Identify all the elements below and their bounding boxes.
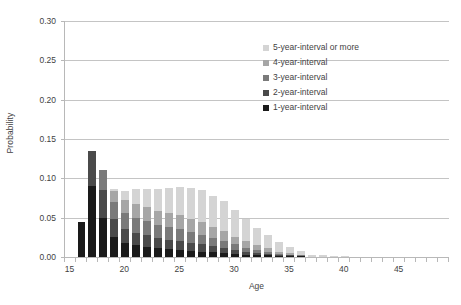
x-axis-tickmark [141, 258, 142, 262]
bar-segment [132, 233, 140, 246]
bar-segment [132, 245, 140, 257]
bar-stack [121, 191, 129, 257]
bar-segment [132, 218, 140, 233]
bar-stack [209, 196, 217, 257]
y-axis-tick-label: 0.25 [39, 55, 56, 65]
x-axis-tickmark [152, 258, 153, 262]
x-axis-tickmark [130, 258, 131, 262]
x-axis-tickmark [382, 258, 383, 262]
bar-stack [198, 190, 206, 257]
bar-segment [143, 221, 151, 235]
bar-segment [132, 189, 140, 203]
x-axis-tickmark [64, 258, 65, 262]
bar-segment [110, 191, 118, 202]
bar-stack [286, 247, 294, 257]
x-axis-tick-label: 15 [65, 264, 74, 274]
x-axis-tickmark [283, 258, 284, 262]
bar-segment [187, 188, 195, 219]
bar-segment [209, 238, 217, 246]
bar-segment [176, 250, 184, 257]
x-axis-tickmark [316, 258, 317, 262]
bar-segment [198, 244, 206, 251]
bar-stack [275, 242, 283, 257]
x-axis-tickmark [174, 258, 175, 262]
bar-segment [110, 219, 118, 236]
y-axis-tick-label: 0.30 [39, 16, 56, 26]
x-axis-tickmark [119, 258, 120, 262]
x-axis-tickmark [75, 258, 76, 262]
x-axis-tick-label: 20 [120, 264, 129, 274]
bar-stack [143, 189, 151, 257]
bar-segment [110, 202, 118, 219]
legend-item-label: 5-year-interval or more [273, 43, 359, 52]
bar-stack [154, 189, 162, 257]
bar-segment [176, 229, 184, 241]
bar-segment [78, 222, 86, 257]
bar-segment [176, 241, 184, 250]
legend-swatch-icon [263, 60, 269, 66]
bar-stack [78, 222, 86, 257]
bar-segment [99, 190, 107, 218]
x-axis-tickmark [196, 258, 197, 262]
x-axis-tickmark [305, 258, 306, 262]
bar-segment [220, 241, 228, 248]
x-axis-tickmark [207, 258, 208, 262]
bar-stack [132, 189, 140, 257]
bar-segment [121, 200, 129, 213]
x-axis-tickmark [108, 258, 109, 262]
bar-segment [275, 242, 283, 251]
legend-item[interactable]: 2-year-interval [263, 85, 423, 100]
x-axis-tickmark [272, 258, 273, 262]
x-axis-tickmark [437, 258, 438, 262]
legend-item[interactable]: 5-year-interval or more [263, 40, 423, 55]
bar-segment [176, 187, 184, 215]
legend-item-label: 4-year-interval [273, 58, 327, 67]
bar-stack [231, 210, 239, 257]
legend-item-label: 3-year-interval [273, 73, 327, 82]
x-axis-tickmark [426, 258, 427, 262]
legend-item[interactable]: 3-year-interval [263, 70, 423, 85]
bar-segment [165, 240, 173, 249]
bar-segment [242, 219, 250, 241]
x-axis-tickmark [185, 258, 186, 262]
x-axis-tickmark [97, 258, 98, 262]
legend-item[interactable]: 4-year-interval [263, 55, 423, 70]
bar-segment [154, 189, 162, 211]
x-axis-tickmark [448, 258, 449, 262]
x-axis-tickmark [86, 258, 87, 262]
legend-item-label: 2-year-interval [273, 88, 327, 97]
x-axis-tickmark [163, 258, 164, 262]
y-axis-tick-label: 0.15 [39, 134, 56, 144]
y-axis-tick-label: 0.20 [39, 95, 56, 105]
bar-segment [121, 243, 129, 257]
bar-segment [198, 235, 206, 244]
bar-segment [165, 227, 173, 240]
legend-swatch-icon [263, 75, 269, 81]
legend-item-label: 1-year-interval [273, 103, 327, 112]
x-axis-tickmark [360, 258, 361, 262]
x-axis-tickmark [393, 258, 394, 262]
x-axis-tick-label: 40 [339, 264, 348, 274]
bar-segment [121, 213, 129, 229]
y-axis-tick-labels: 0.000.050.100.150.200.250.30 [18, 0, 60, 265]
x-axis-tick-label: 45 [394, 264, 403, 274]
bar-segment [165, 249, 173, 257]
bar-segment [143, 189, 151, 207]
legend-swatch-icon [263, 45, 269, 51]
bar-stack [165, 188, 173, 257]
bar-stack [176, 187, 184, 257]
stacked-bar-chart: Probability 0.000.050.100.150.200.250.30… [0, 0, 461, 305]
bar-segment [143, 247, 151, 257]
x-axis-tickmark [240, 258, 241, 262]
bar-stack [187, 188, 195, 257]
legend-item[interactable]: 1-year-interval [263, 100, 423, 115]
x-axis-tickmark [404, 258, 405, 262]
x-axis-tick-label: 30 [229, 264, 238, 274]
bar-segment [88, 151, 96, 186]
x-axis-tickmark [294, 258, 295, 262]
bar-segment [220, 201, 228, 231]
bar-segment [143, 235, 151, 247]
bar-segment [154, 225, 162, 238]
bar-segment [154, 248, 162, 257]
bar-stack [99, 170, 107, 257]
